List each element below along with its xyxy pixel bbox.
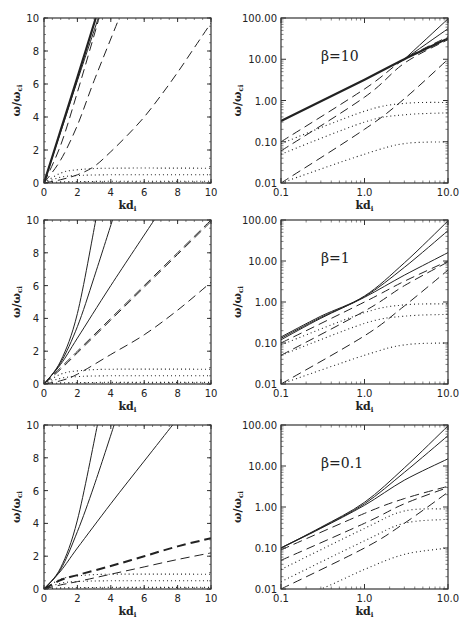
beta-annotation: β=10 [321, 48, 359, 64]
series-solid-2 [281, 231, 448, 339]
panel-log-beta0.1: 0.11.010.00.010.101.0010.00100.00kdiω/ωc… [231, 420, 459, 619]
series-group [44, 220, 211, 384]
x-tick-label: 6 [141, 187, 147, 198]
panel-linear-beta1: 02468100246810kdiω/ωci [10, 215, 217, 414]
x-tick-label: 2 [74, 593, 80, 604]
y-tick-label: 0.10 [255, 137, 277, 148]
y-tick-label: 8 [33, 248, 39, 259]
y-tick-label: 8 [33, 453, 39, 464]
y-tick-label: 10.00 [248, 54, 277, 65]
y-tick-label: 1.00 [255, 502, 277, 513]
x-tick-label: 10.0 [437, 187, 459, 198]
series-dot-1 [281, 509, 448, 570]
y-tick-label: 10.00 [248, 461, 277, 472]
dispersion-figure: 02468100246810kdiω/ωci0.11.010.00.010.10… [0, 0, 474, 629]
series-group [44, 18, 211, 183]
y-tick-label: 0.01 [255, 379, 277, 390]
series-solid-3 [44, 220, 154, 384]
x-tick-label: 0 [41, 187, 47, 198]
x-tick-label: 8 [174, 593, 180, 604]
y-tick-label: 6 [33, 486, 39, 497]
y-tick-label: 0 [33, 178, 39, 189]
series-dot-3 [281, 343, 448, 384]
x-tick-label: 8 [174, 388, 180, 399]
y-tick-label: 8 [33, 46, 39, 57]
x-tick-label: 1.0 [357, 593, 373, 604]
x-tick-label: 10 [205, 388, 218, 399]
panel-linear-beta10: 02468100246810kdiω/ωci [10, 13, 217, 213]
series-dash-3 [281, 59, 448, 183]
series-solid-1 [44, 425, 97, 589]
series-dash-2 [44, 553, 211, 589]
y-axis-label: ω/ωci [10, 491, 24, 523]
y-tick-label: 100.00 [242, 215, 277, 226]
x-tick-label: 10 [205, 593, 218, 604]
x-tick-label: 6 [141, 388, 147, 399]
x-tick-label: 8 [174, 187, 180, 198]
y-axis-label: ω/ωci [10, 84, 24, 116]
x-tick-label: 1.0 [357, 187, 373, 198]
y-tick-label: 0.10 [255, 543, 277, 554]
series-solid-2 [44, 425, 114, 589]
series-dash-1 [281, 261, 448, 343]
x-axis-label: kdi [119, 199, 137, 213]
y-tick-label: 4 [33, 112, 39, 123]
y-tick-label: 0.01 [255, 584, 277, 595]
series-dot-3 [281, 142, 448, 183]
series-dot-1 [44, 369, 211, 384]
series-group [281, 221, 448, 384]
y-tick-label: 0.10 [255, 338, 277, 349]
y-tick-label: 2 [33, 551, 39, 562]
x-axis-label: kdi [356, 199, 374, 213]
y-tick-label: 10 [26, 13, 39, 24]
plot-frame [44, 425, 211, 589]
series-solid-1 [281, 221, 448, 337]
y-tick-label: 0.01 [255, 178, 277, 189]
y-tick-label: 100.00 [242, 13, 277, 24]
x-axis-label: kdi [119, 400, 137, 414]
y-tick-label: 4 [33, 313, 39, 324]
x-tick-label: 2 [74, 388, 80, 399]
series-dash-2 [281, 262, 448, 355]
y-tick-label: 10.00 [248, 256, 277, 267]
x-tick-label: 10.0 [437, 593, 459, 604]
x-axis-label: kdi [356, 400, 374, 414]
y-axis-label: ω/ωci [10, 286, 24, 318]
y-tick-label: 10 [26, 215, 39, 226]
x-tick-label: 10 [205, 187, 218, 198]
y-tick-label: 4 [33, 518, 39, 529]
series-dash-3 [281, 492, 448, 589]
series-dot-1 [44, 168, 211, 183]
x-axis-label: kdi [356, 605, 374, 619]
y-tick-label: 10 [26, 420, 39, 431]
x-tick-label: 2 [74, 187, 80, 198]
series-solid-1 [44, 220, 96, 384]
series-dash-1 [281, 486, 448, 550]
series-dot-2 [281, 113, 448, 154]
y-tick-label: 6 [33, 281, 39, 292]
y-axis-label: ω/ωci [231, 491, 245, 523]
series-group [281, 426, 448, 601]
y-tick-label: 2 [33, 145, 39, 156]
y-tick-label: 2 [33, 346, 39, 357]
series-solid-1 [281, 426, 448, 548]
panel-log-beta10: 0.11.010.00.010.101.0010.00100.00kdiω/ωc… [231, 13, 459, 213]
plot-frame [281, 18, 448, 183]
x-tick-label: 0 [41, 388, 47, 399]
series-dash-3 [281, 270, 448, 384]
beta-annotation: β=1 [321, 250, 350, 266]
series-solid-2 [281, 436, 448, 548]
series-dash-2 [44, 18, 119, 183]
x-tick-label: 4 [108, 593, 114, 604]
x-tick-label: 4 [108, 388, 114, 399]
y-tick-label: 6 [33, 79, 39, 90]
panel-linear-beta0.1: 02468100246810kdiω/ωci [10, 420, 217, 619]
series-dot-1 [44, 574, 211, 589]
y-tick-label: 0 [33, 379, 39, 390]
series-dash-2 [281, 40, 448, 151]
y-tick-label: 1.00 [255, 297, 277, 308]
y-tick-label: 1.00 [255, 96, 277, 107]
y-tick-label: 100.00 [242, 420, 277, 431]
x-tick-label: 10.0 [437, 388, 459, 399]
y-axis-label: ω/ωci [231, 84, 245, 116]
